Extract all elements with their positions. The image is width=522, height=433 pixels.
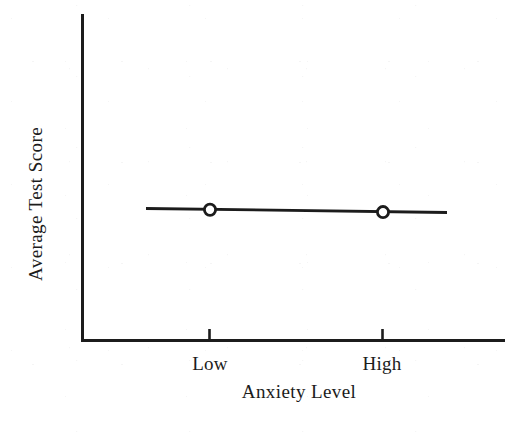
data-line-average-test-score <box>146 209 447 213</box>
data-point-marker-high <box>377 207 388 218</box>
chart-plot-area <box>0 0 522 433</box>
data-point-marker-low <box>204 204 215 215</box>
x-tick-label-high: High <box>332 354 432 373</box>
x-axis-title: Anxiety Level <box>199 382 399 401</box>
x-tick-label-low: Low <box>160 354 260 373</box>
chart-figure: Low High Anxiety Level Average Test Scor… <box>0 0 522 433</box>
y-axis-title: Average Test Score <box>26 127 45 281</box>
y-axis-title-container: Average Test Score <box>0 98 70 310</box>
